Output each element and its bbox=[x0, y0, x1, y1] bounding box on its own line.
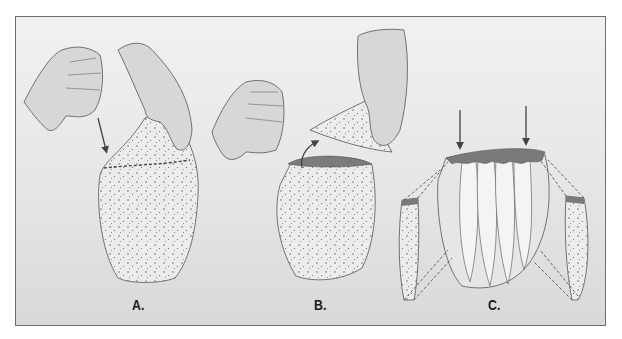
panel-label-b: B. bbox=[314, 296, 326, 313]
panel-a bbox=[24, 43, 198, 282]
arrow-a bbox=[98, 118, 106, 150]
panel-label-c: C. bbox=[488, 296, 500, 313]
sac-b bbox=[277, 158, 375, 280]
panel-c bbox=[399, 106, 588, 300]
dark-opening bbox=[288, 156, 372, 167]
left-segment bbox=[399, 198, 419, 300]
panel-b bbox=[212, 29, 407, 280]
illustration bbox=[0, 0, 622, 339]
scalloped-rim bbox=[446, 149, 545, 164]
panel-label-a: A. bbox=[132, 296, 144, 313]
right-segment bbox=[565, 196, 588, 300]
left-hand-a bbox=[24, 47, 103, 130]
